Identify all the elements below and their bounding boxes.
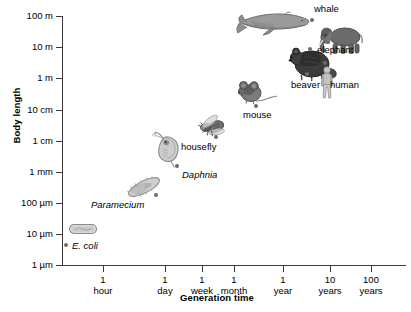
datapoint-e-coli <box>64 243 68 247</box>
x-axis-tick <box>234 266 235 272</box>
y-axis-tick <box>56 16 62 17</box>
species-label-housefly: housefly <box>181 142 216 152</box>
x-axis-label-unit: hour <box>73 285 133 296</box>
housefly-illustration <box>196 113 228 139</box>
x-axis-label-100-years: 100 years <box>341 274 401 296</box>
species-label-paramecium: Paramecium <box>91 200 144 210</box>
y-axis-label-100m: 100 m <box>27 11 53 21</box>
y-axis-line <box>62 16 63 266</box>
datapoint-housefly <box>214 135 218 139</box>
y-axis-label-1mm: 1 mm <box>29 167 53 177</box>
x-axis-label-1-hour: 1 hour <box>73 274 133 296</box>
x-axis-tick <box>202 266 203 272</box>
paramecium-illustration <box>124 175 164 199</box>
species-label-whale: whale <box>314 4 339 14</box>
datapoint-daphnia <box>175 164 179 168</box>
x-axis-label-number: 1 <box>73 274 133 285</box>
datapoint-mouse <box>254 104 258 108</box>
datapoint-human <box>323 61 327 65</box>
species-label-e-coli: E. coli <box>72 241 98 251</box>
species-label-elephant: elephant <box>317 45 353 55</box>
y-axis-label-100um: 100 µm <box>21 198 53 208</box>
y-axis-label-10cm: 10 cm <box>27 105 53 115</box>
species-label-daphnia: Daphnia <box>182 170 217 180</box>
y-axis-tick <box>56 234 62 235</box>
y-axis-tick <box>56 110 62 111</box>
daphnia-illustration <box>150 132 184 166</box>
x-axis-tick <box>165 266 166 272</box>
y-axis-tick <box>56 47 62 48</box>
y-axis-label-10m: 10 m <box>32 42 53 52</box>
x-axis-tick <box>371 266 372 272</box>
y-axis-title: Body length <box>11 76 22 156</box>
y-axis-tick <box>56 141 62 142</box>
y-axis-tick <box>56 265 62 266</box>
x-axis-tick <box>103 266 104 272</box>
y-axis-label-10um: 10 µm <box>26 229 53 239</box>
y-axis-tick <box>56 203 62 204</box>
species-label-mouse: mouse <box>243 110 272 120</box>
y-axis-label-1cm: 1 cm <box>32 136 53 146</box>
x-axis-tick <box>330 266 331 272</box>
x-axis-tick <box>283 266 284 272</box>
datapoint-elephant <box>308 47 312 51</box>
x-axis-label-number: 100 <box>341 274 401 285</box>
e-coli-illustration <box>68 222 98 236</box>
y-axis-label-1um: 1 µm <box>32 260 53 270</box>
species-label-beaver: beaver <box>291 80 320 90</box>
body-length-vs-generation-time-chart: Body length Generation time 100 m 10 m 1… <box>0 0 411 312</box>
y-axis-tick <box>56 172 62 173</box>
y-axis-tick <box>56 78 62 79</box>
species-label-human: human <box>330 80 359 90</box>
datapoint-paramecium <box>154 193 158 197</box>
y-axis-label-1m: 1 m <box>37 73 53 83</box>
whale-illustration <box>238 8 314 42</box>
x-axis-label-unit: years <box>341 285 401 296</box>
datapoint-beaver <box>305 72 309 76</box>
datapoint-whale <box>310 18 314 22</box>
